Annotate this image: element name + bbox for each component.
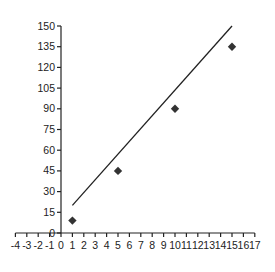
x-tick-label: 3 <box>92 239 98 251</box>
y-tick-label: 150 <box>37 20 55 32</box>
data-point-diamond <box>228 43 236 51</box>
y-tick-label: 105 <box>37 82 55 94</box>
x-tick-label: -4 <box>11 239 20 251</box>
x-tick-label: 11 <box>181 239 192 251</box>
scatter-chart: 0153045607590105120135150-4-3-2-10123456… <box>0 0 275 272</box>
x-tick-label: -1 <box>45 239 54 251</box>
x-tick-label: 4 <box>104 239 110 251</box>
x-tick-label: 10 <box>169 239 181 251</box>
x-tick-label: 6 <box>126 239 132 251</box>
chart-canvas: 0153045607590105120135150-4-3-2-10123456… <box>0 0 275 272</box>
x-tick-label: 12 <box>192 239 204 251</box>
data-point-diamond <box>114 167 122 175</box>
x-tick-label: 7 <box>138 239 144 251</box>
axes: 0153045607590105120135150-4-3-2-10123456… <box>11 20 261 252</box>
series-layer <box>68 26 236 225</box>
x-tick-label: 14 <box>215 239 227 251</box>
y-tick-label: 120 <box>37 61 55 73</box>
x-tick-label: 1 <box>69 239 75 251</box>
y-tick-label: 30 <box>43 185 55 197</box>
x-tick-label: 5 <box>115 239 121 251</box>
x-tick-label: 13 <box>203 239 215 251</box>
x-tick-label: 8 <box>149 239 155 251</box>
y-tick-label: 75 <box>43 123 55 135</box>
x-tick-label: -2 <box>34 239 43 251</box>
y-tick-label: 90 <box>43 102 55 114</box>
y-tick-label: 135 <box>37 40 55 52</box>
x-tick-label: 9 <box>161 239 167 251</box>
trend-line <box>72 26 232 205</box>
y-tick-label: 60 <box>43 144 55 156</box>
x-tick-label: 16 <box>238 239 250 251</box>
data-point-diamond <box>171 105 179 113</box>
x-tick-label: 2 <box>81 239 87 251</box>
y-tick-label: 45 <box>43 164 55 176</box>
y-tick-label: 15 <box>43 206 55 218</box>
x-tick-label: 0 <box>58 239 64 251</box>
data-point-diamond <box>68 216 76 224</box>
x-tick-label: -3 <box>22 239 31 251</box>
x-tick-label: 17 <box>249 239 261 251</box>
x-tick-label: 15 <box>226 239 238 251</box>
